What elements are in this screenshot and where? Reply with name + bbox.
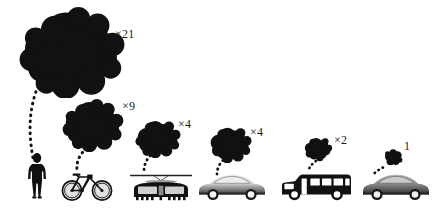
bus-icon [279, 168, 355, 202]
bicycle-icon [59, 166, 115, 202]
label-train: ×4 [178, 118, 191, 130]
car-icon-small [360, 168, 432, 202]
label-car-small: 1 [404, 140, 410, 152]
transport-footprint-figure: ×21 [0, 0, 448, 216]
label-pedestrian: ×21 [115, 28, 134, 40]
cloud-bus [303, 136, 333, 162]
cloud-car [208, 125, 252, 163]
label-bicycle: ×9 [122, 100, 135, 112]
cloud-pedestrian [18, 6, 126, 98]
label-car: ×4 [250, 126, 263, 138]
cloud-train [135, 118, 181, 158]
train-icon [128, 167, 194, 202]
pedestrian-icon [23, 152, 51, 200]
car-icon [196, 168, 268, 202]
cloud-bicycle [62, 98, 124, 152]
label-bus: ×2 [334, 134, 347, 146]
cloud-car-small [383, 148, 405, 167]
